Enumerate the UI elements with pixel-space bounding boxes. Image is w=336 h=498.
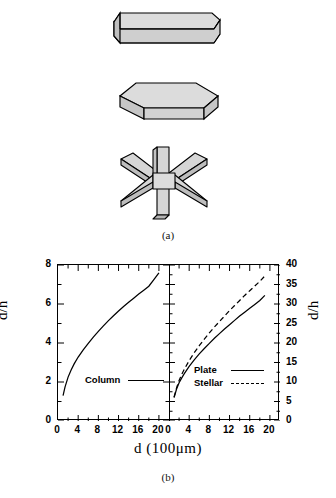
tick-marks-layer xyxy=(58,265,280,421)
y-tick-label-right: 20 xyxy=(286,336,312,347)
legend-swatch-plate xyxy=(231,370,264,371)
figure-ice-crystal-habits: (a) 024680510152025303540048121620048121… xyxy=(0,0,336,498)
y-tick-label-right: 40 xyxy=(286,258,312,269)
y-tick-label-left: 4 xyxy=(25,336,51,347)
legend-label-plate: Plate xyxy=(194,364,217,375)
panel-a-crystal-drawings: (a) xyxy=(0,0,336,250)
panel-a-label: (a) xyxy=(0,229,336,241)
y-tick-label-right: 10 xyxy=(286,375,312,386)
y-tick-label-left: 2 xyxy=(25,375,51,386)
y-tick-label-right: 5 xyxy=(286,395,312,406)
y-axis-title-right: d/h xyxy=(305,301,322,320)
y-tick-label-right: 35 xyxy=(286,278,312,289)
x-tick-label-right: 16 xyxy=(239,424,259,435)
legend-label-column: Column xyxy=(85,374,120,385)
legend-swatch-column xyxy=(128,380,164,381)
x-tick-label-left: 16 xyxy=(128,424,148,435)
panel-b-label: (b) xyxy=(0,471,336,483)
y-axis-title-left: d/h xyxy=(0,301,11,320)
x-axis-title: d (100μm) xyxy=(0,440,336,457)
hexagonal-column-crystal-drawing xyxy=(100,8,230,60)
hexagonal-plate-crystal-drawing xyxy=(100,78,230,128)
y-tick-label-left: 8 xyxy=(25,258,51,269)
x-tick-label-right: 4 xyxy=(178,424,198,435)
x-tick-label-right: 12 xyxy=(219,424,239,435)
x-tick-label-right: 8 xyxy=(198,424,218,435)
stellar-dendrite-crystal-drawing xyxy=(103,143,225,223)
x-tick-label-right: 20 xyxy=(259,424,279,435)
y-tick-label-right: 15 xyxy=(286,356,312,367)
x-tick-label-left: 12 xyxy=(108,424,128,435)
legend-label-stellar: Stellar xyxy=(194,377,223,388)
x-tick-label-right: 0 xyxy=(158,424,178,435)
legend-swatch-stellar xyxy=(231,383,264,384)
x-tick-label-left: 0 xyxy=(47,424,67,435)
panel-b-plots: 024680510152025303540048121620048121620 … xyxy=(0,250,336,498)
x-tick-label-left: 4 xyxy=(67,424,87,435)
y-tick-label-left: 6 xyxy=(25,297,51,308)
y-tick-label-right: 0 xyxy=(286,414,312,425)
plot-frame xyxy=(57,264,279,420)
x-tick-label-left: 8 xyxy=(87,424,107,435)
